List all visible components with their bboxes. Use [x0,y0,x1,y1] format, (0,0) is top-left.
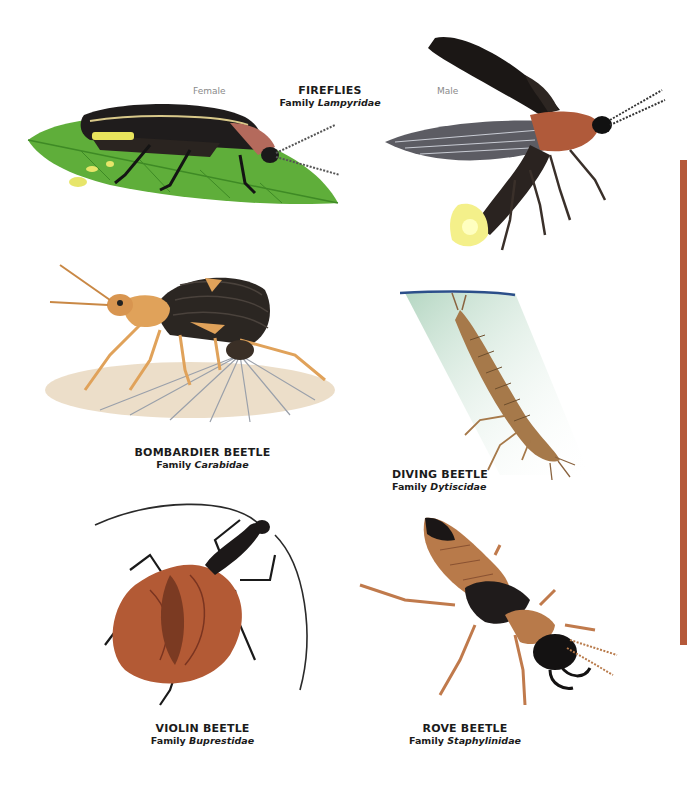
species-name: DIVING BEETLE [392,468,492,481]
firefly-on-leaf-icon [20,95,350,215]
family-prefix: Family [392,481,427,492]
diving-beetle-larva-icon [390,285,600,485]
species-family: Family Carabidae [120,459,285,470]
species-family: Family Buprestidae [145,735,260,746]
page-accent-bar [680,160,687,645]
firefly-flying-icon [380,30,670,260]
bombardier-beetle-icon [40,260,340,430]
family-prefix: Family [156,459,191,470]
family-prefix: Family [409,735,444,746]
diving-beetle-caption: DIVING BEETLE Family Dytiscidae [392,468,492,493]
species-name: VIOLIN BEETLE [145,722,260,735]
family-name: Dytiscidae [430,481,486,492]
species-name: BOMBARDIER BEETLE [120,446,285,459]
rove-beetle-icon [355,510,635,710]
species-name: ROVE BEETLE [400,722,530,735]
bombardier-beetle-caption: BOMBARDIER BEETLE Family Carabidae [120,446,285,471]
family-name: Buprestidae [189,735,254,746]
family-name: Carabidae [195,459,249,470]
violin-beetle-icon [90,495,320,705]
rove-beetle-caption: ROVE BEETLE Family Staphylinidae [400,722,530,747]
species-family: Family Dytiscidae [392,481,492,492]
species-family: Family Staphylinidae [400,735,530,746]
family-name: Staphylinidae [447,735,521,746]
violin-beetle-caption: VIOLIN BEETLE Family Buprestidae [145,722,260,747]
family-prefix: Family [151,735,186,746]
